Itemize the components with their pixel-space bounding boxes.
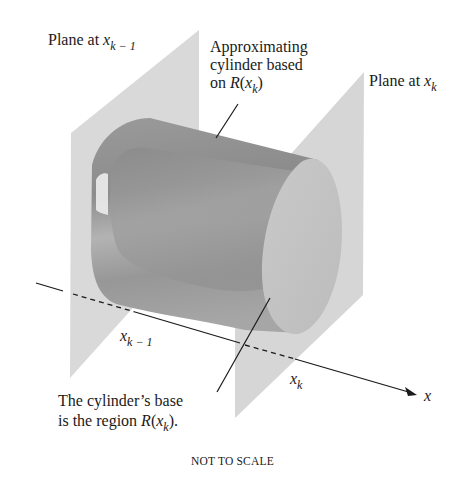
- cylinder-slice-diagram: Plane at xk − 1 Approximating cylinder b…: [0, 0, 473, 482]
- label-plane-left: Plane at xk − 1: [48, 31, 136, 50]
- label-axis-x: x: [424, 387, 431, 405]
- label-axis-xk: xk: [290, 370, 302, 389]
- label-plane-right: Plane at xk: [369, 72, 437, 91]
- caption-not-to-scale: NOT TO SCALE: [191, 455, 274, 467]
- label-axis-xk-minus-1: xk − 1: [120, 327, 153, 346]
- cylinder-highlight: [96, 173, 108, 215]
- leader-line-cylinder: [216, 104, 238, 138]
- axis-arrowhead-icon: [405, 387, 417, 396]
- axis-segment-right: [295, 359, 412, 393]
- label-cylinder: Approximating cylinder based on R(xk): [210, 38, 308, 93]
- axis-segment-left: [36, 283, 63, 291]
- label-base-region: The cylinder’s base is the region R(xk).: [58, 391, 183, 432]
